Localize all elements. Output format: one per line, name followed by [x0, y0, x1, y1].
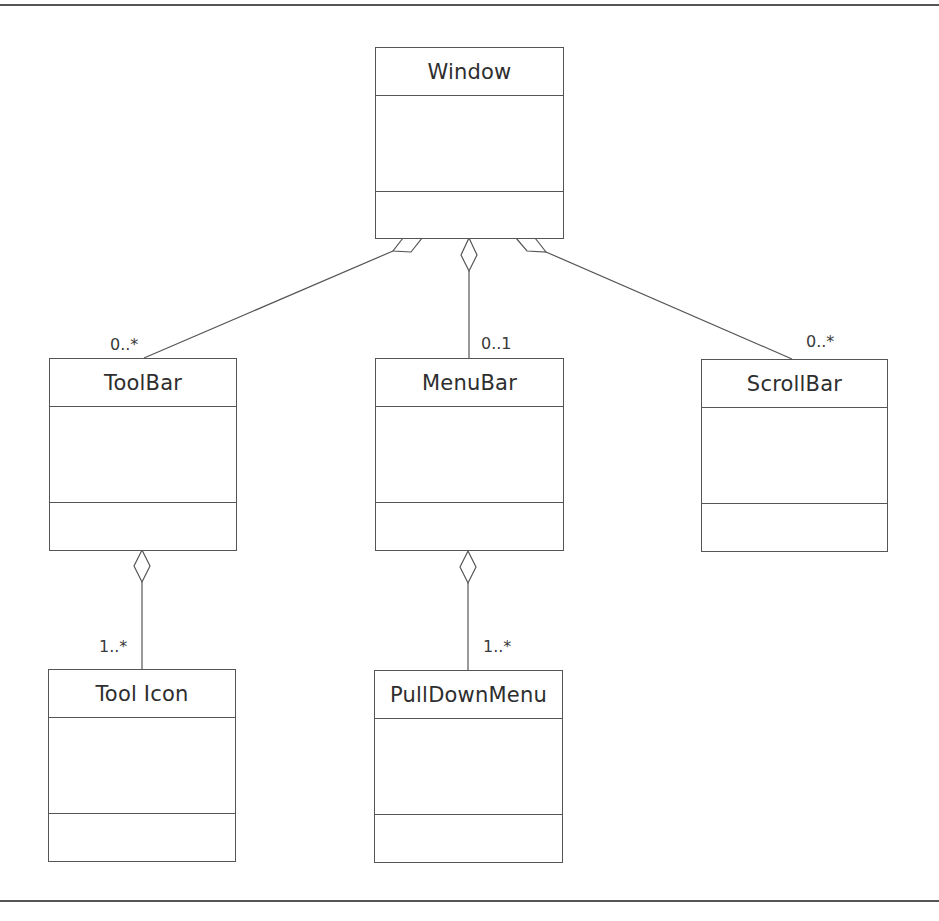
- class-attributes-compartment: [376, 96, 563, 192]
- multiplicity-toolbar: 0..*: [110, 337, 138, 353]
- class-name-toolbar: ToolBar: [50, 359, 236, 407]
- association-line-window-scrollbar: [546, 252, 792, 359]
- aggregation-diamond-icon: [393, 238, 422, 252]
- class-box-scrollbar[interactable]: ScrollBar: [701, 359, 888, 552]
- class-operations-compartment: [50, 503, 236, 550]
- multiplicity-pulldownmenu: 1..*: [483, 639, 511, 655]
- aggregation-diamond-icon: [516, 238, 546, 252]
- class-name-scrollbar: ScrollBar: [702, 360, 887, 408]
- class-box-tool-icon[interactable]: Tool Icon: [48, 669, 236, 862]
- class-attributes-compartment: [49, 718, 235, 814]
- association-line-window-toolbar: [144, 251, 393, 358]
- class-name-tool-icon: Tool Icon: [49, 670, 235, 718]
- class-operations-compartment: [376, 503, 563, 550]
- class-box-window[interactable]: Window: [375, 47, 564, 239]
- aggregation-diamond-icon: [134, 550, 150, 582]
- aggregation-diamond-icon: [461, 238, 477, 271]
- aggregation-diamond-icon: [460, 551, 476, 583]
- class-attributes-compartment: [702, 408, 887, 504]
- class-operations-compartment: [376, 192, 563, 238]
- class-attributes-compartment: [375, 719, 562, 815]
- multiplicity-tool-icon: 1..*: [99, 639, 127, 655]
- multiplicity-scrollbar: 0..*: [806, 334, 834, 350]
- class-attributes-compartment: [376, 407, 563, 503]
- class-name-window: Window: [376, 48, 563, 96]
- class-operations-compartment: [702, 504, 887, 551]
- class-operations-compartment: [375, 815, 562, 862]
- class-box-menubar[interactable]: MenuBar: [375, 358, 564, 551]
- class-box-pulldownmenu[interactable]: PullDownMenu: [374, 670, 563, 863]
- class-box-toolbar[interactable]: ToolBar: [49, 358, 237, 551]
- class-attributes-compartment: [50, 407, 236, 503]
- class-name-pulldownmenu: PullDownMenu: [375, 671, 562, 719]
- class-operations-compartment: [49, 814, 235, 861]
- class-name-menubar: MenuBar: [376, 359, 563, 407]
- multiplicity-menubar: 0..1: [481, 336, 512, 352]
